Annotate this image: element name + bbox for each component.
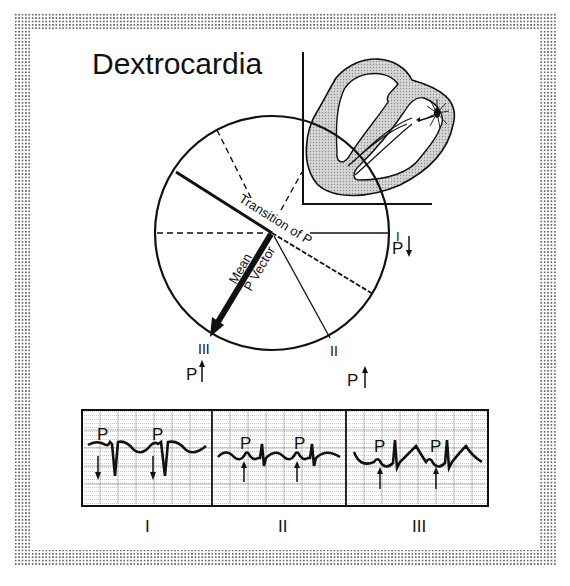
lead-iii-p-label: P (186, 365, 197, 385)
lead-ii-label: II (330, 343, 338, 359)
ecg-p-label: P (430, 437, 441, 456)
ecg-strips: P P P P P P (82, 410, 488, 506)
lead-ii-p-label: P (347, 371, 358, 391)
ecg-p-label: P (152, 425, 163, 444)
lead-i-p-indicator (406, 236, 412, 257)
lead-iii-label: III (198, 341, 210, 357)
axis-dashed-upper-left (217, 130, 252, 200)
ecg-p-label: P (97, 425, 108, 444)
lead-iii-p-indicator (199, 360, 205, 382)
ecg-lead-iii-label: III (412, 517, 426, 537)
lead-ii-p-indicator (362, 366, 368, 388)
lead-i-p-label: P (392, 239, 403, 259)
ecg-lead-ii-label: II (278, 517, 287, 537)
diagram-canvas: Transition of P Mean P Vector (0, 0, 570, 586)
axis-dashed-upper-right (281, 172, 302, 210)
ecg-p-label: P (294, 434, 305, 453)
transition-line-extension (272, 233, 373, 294)
ecg-p-label: P (240, 434, 251, 453)
ecg-p-label: P (374, 437, 385, 456)
ecg-lead-i-label: I (145, 517, 150, 537)
